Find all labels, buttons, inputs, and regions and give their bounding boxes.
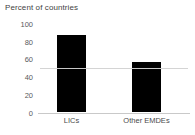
x-axis-line <box>38 113 190 114</box>
ytick-label: 100 <box>7 20 33 29</box>
reference-line <box>40 68 188 69</box>
ytick-label: 80 <box>7 37 33 46</box>
plot-area: 100 80 60 40 20 0 LICs Other EMDEs <box>0 0 195 135</box>
ytick-label: 0 <box>7 108 33 117</box>
bar-lics <box>57 35 86 113</box>
bar-chart: Percent of countries 100 80 60 40 20 0 L… <box>0 0 195 135</box>
xtick-label-other-emdes: Other EMDEs <box>123 116 169 125</box>
xtick-label-lics: LICs <box>64 116 79 125</box>
ytick-label: 40 <box>7 73 33 82</box>
ytick-label: 60 <box>7 55 33 64</box>
ytick-label: 20 <box>7 90 33 99</box>
bar-other-emdes <box>132 62 161 112</box>
